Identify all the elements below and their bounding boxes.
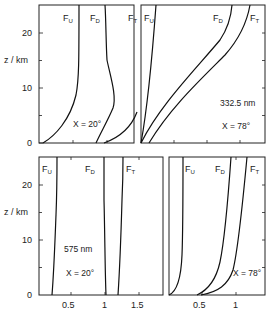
annotation-chi: X = 20° [66, 268, 94, 278]
ytick-0: 0 [27, 138, 32, 148]
annotation-wavelength: 575 nm [64, 244, 92, 254]
ytick-10: 10 [22, 83, 32, 93]
panel-bottom-right: 0.5 1 FU FD FT X = 78° [169, 157, 265, 310]
curve-fu [141, 5, 156, 143]
flux-profile-figure: 0 10 20 z / km FU FD FT X = 20° FU FD FT… [0, 0, 269, 312]
ytick-20: 20 [22, 28, 32, 38]
annotation-chi: X = 78° [222, 121, 250, 131]
xtick-0.5: 0.5 [62, 300, 75, 310]
panel-top-right: FU FD FT 332.5 nm X = 78° [141, 5, 265, 143]
xtick-0.5: 0.5 [193, 300, 206, 310]
ytick-0: 0 [27, 290, 32, 300]
curve-fd [197, 157, 231, 295]
curve-ft [118, 157, 123, 295]
label-fd: FD [85, 164, 96, 175]
label-ft: FT [128, 13, 138, 24]
xtick-1: 1 [102, 300, 107, 310]
label-fd: FD [213, 13, 224, 24]
label-fd: FD [215, 164, 226, 175]
annotation-chi: X = 20° [73, 119, 101, 129]
panel-bottom-left: 0 10 20 z / km 0.5 1 1.5 FU FD FT 575 nm… [4, 157, 163, 310]
label-ft: FT [250, 13, 260, 24]
label-ft: FT [126, 164, 136, 175]
annotation-wavelength: 332.5 nm [220, 98, 255, 108]
xtick-1.5: 1.5 [131, 300, 144, 310]
xtick-1: 1 [233, 300, 238, 310]
y-axis-label: z / km [4, 55, 28, 65]
ytick-10: 10 [22, 235, 32, 245]
curve-fd [104, 157, 106, 295]
label-fu: FU [63, 13, 73, 24]
curve-fu [169, 157, 183, 295]
ytick-20: 20 [22, 180, 32, 190]
label-fd: FD [90, 13, 101, 24]
label-ft: FT [250, 164, 260, 175]
panel-top-left: 0 10 20 z / km FU FD FT X = 20° [4, 5, 138, 148]
annotation-chi: X = 78° [233, 268, 261, 278]
label-fu: FU [185, 164, 195, 175]
curve-fu [52, 157, 57, 295]
label-fu: FU [144, 13, 154, 24]
y-axis-label: z / km [4, 207, 28, 217]
label-fu: FU [42, 164, 52, 175]
